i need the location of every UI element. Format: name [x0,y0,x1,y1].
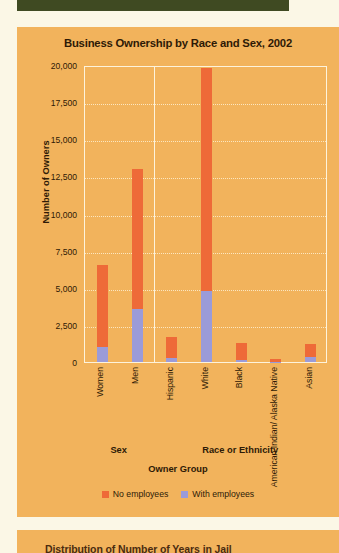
y-axis-tick-label: 20,000 [51,61,77,71]
x-axis-title: Owner Group [17,464,339,474]
bar-men [132,169,143,362]
bar-segment-with-employees [305,357,316,362]
y-axis-tick-label: 10,000 [51,210,77,220]
category-label: Asian [305,367,315,389]
bar-asian [305,344,316,362]
plot-area [84,66,327,363]
bar-segment-with-employees [97,347,108,362]
legend-item: No employees [102,489,169,499]
bar-segment-no-employees [236,343,247,360]
bar-segment-with-employees [201,291,212,362]
bar-hispanic [166,337,177,362]
page-left-margin [0,0,17,553]
legend-swatch [181,491,188,498]
next-section-panel: Distribution of Number of Years in Jail [17,530,339,553]
y-axis-tick-label: 17,500 [51,98,77,108]
bar-black [236,343,247,362]
category-label: Hispanic [166,367,176,400]
bar-segment-no-employees [132,169,143,309]
y-axis-title: Number of Owners [41,117,51,247]
bar-segment-with-employees [166,358,177,362]
chart-title: Business Ownership by Race and Sex, 2002 [17,37,339,49]
legend-item: With employees [181,489,254,499]
bar-women [97,265,108,362]
bar-segment-no-employees [97,265,108,347]
y-axis-tick-label: 7,500 [55,247,77,257]
chart-panel: Business Ownership by Race and Sex, 2002… [17,27,339,517]
y-axis-tick-label: 0 [72,358,77,368]
next-section-caption: Distribution of Number of Years in Jail [45,543,232,553]
bar-segment-no-employees [201,68,212,291]
category-label: Black [235,367,245,388]
group-separator [154,67,155,362]
bar-segment-no-employees [166,337,177,359]
category-label: White [201,367,211,389]
y-axis-tick-label: 15,000 [51,135,77,145]
group-label: Race or Ethnicity [160,445,320,455]
category-label: Men [131,367,141,384]
legend-swatch [102,491,109,498]
chart-legend: No employeesWith employees [17,489,339,499]
bar-segment-no-employees [305,344,316,357]
category-label: Women [96,367,106,397]
bar-segment-with-employees [132,309,143,362]
legend-label: No employees [113,489,169,499]
bar-american-indian--alaska-native [270,359,281,362]
bar-white [201,68,212,362]
bar-segment-with-employees [236,360,247,362]
y-axis-tick-label: 12,500 [51,172,77,182]
y-axis-tick-label: 5,000 [55,284,77,294]
y-axis-tick-label: 2,500 [55,321,77,331]
legend-label: With employees [192,489,254,499]
page-header-band [17,0,289,11]
